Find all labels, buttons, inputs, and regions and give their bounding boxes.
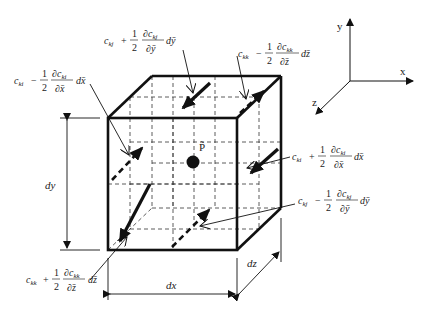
control-volume-diagram: P̃ dy dx dz y x z ckj + 1 2 — [0, 0, 427, 316]
flux-label-bottom: ckj − 1 2 ∂ckj ∂ȳ dȳ — [298, 188, 370, 214]
svg-text:∂x̄: ∂x̄ — [55, 83, 65, 94]
svg-text:ckk: ckk — [238, 48, 250, 61]
svg-text:1: 1 — [132, 28, 137, 39]
svg-text:∂ckk: ∂ckk — [277, 41, 293, 54]
svg-text:1: 1 — [326, 188, 331, 199]
dimension-dy — [60, 118, 100, 250]
svg-text:+: + — [309, 151, 315, 162]
svg-text:dz̄: dz̄ — [88, 274, 97, 285]
axis-z-label: z — [312, 96, 317, 108]
svg-text:2: 2 — [132, 42, 137, 53]
svg-text:−: − — [315, 195, 321, 206]
svg-text:cki: cki — [14, 75, 24, 88]
svg-text:∂z̄: ∂z̄ — [280, 56, 289, 67]
svg-text:∂cki: ∂cki — [331, 144, 345, 157]
svg-text:+: + — [121, 35, 127, 46]
svg-text:cki: cki — [292, 151, 302, 164]
svg-text:dx̄: dx̄ — [76, 75, 86, 86]
svg-text:2: 2 — [326, 202, 331, 213]
svg-text:∂ȳ: ∂ȳ — [146, 43, 156, 54]
svg-text:∂x̄: ∂x̄ — [334, 159, 344, 170]
flux-label-back: ckk − 1 2 ∂ckk ∂z̄ dz̄ — [238, 41, 310, 67]
coordinate-axes — [316, 19, 413, 114]
svg-text:2: 2 — [267, 55, 272, 66]
dimension-dz-label: dz — [247, 257, 258, 269]
axis-y-label: y — [337, 20, 343, 32]
svg-text:2: 2 — [54, 281, 59, 292]
dimension-dy-label: dy — [45, 179, 56, 191]
dimension-dx-label: dx — [166, 279, 177, 291]
svg-text:+: + — [43, 274, 49, 285]
svg-text:dȳ: dȳ — [166, 35, 176, 46]
flux-label-right: cki + 1 2 ∂cki ∂x̄ dx̄ — [292, 144, 364, 170]
svg-text:ckj: ckj — [298, 195, 308, 208]
svg-text:2: 2 — [42, 82, 47, 93]
axis-x-label: x — [400, 65, 406, 77]
svg-text:dx̄: dx̄ — [354, 151, 364, 162]
svg-text:∂ckj: ∂ckj — [337, 188, 351, 201]
svg-text:dȳ: dȳ — [360, 195, 370, 206]
svg-text:−: − — [256, 48, 262, 59]
svg-text:−: − — [31, 75, 37, 86]
svg-text:1: 1 — [54, 267, 59, 278]
svg-text:∂cki: ∂cki — [52, 68, 66, 81]
svg-text:2: 2 — [320, 158, 325, 169]
svg-text:∂ckj: ∂ckj — [143, 28, 157, 41]
center-point — [187, 156, 200, 169]
svg-text:1: 1 — [267, 41, 272, 52]
flux-label-top: ckj + 1 2 ∂ckj ∂ȳ dȳ — [104, 28, 176, 54]
center-point-label: P̃ — [199, 141, 205, 153]
svg-text:∂ȳ: ∂ȳ — [340, 203, 350, 214]
svg-text:dz̄: dz̄ — [301, 48, 310, 59]
svg-text:1: 1 — [320, 144, 325, 155]
svg-text:ckj: ckj — [104, 35, 114, 48]
svg-text:∂ckk: ∂ckk — [64, 267, 80, 280]
flux-label-left: cki − 1 2 ∂cki ∂x̄ dx̄ — [14, 68, 86, 94]
svg-text:1: 1 — [42, 68, 47, 79]
flux-label-front: ckk + 1 2 ∂ckk ∂z̄ dz̄ — [26, 267, 97, 293]
svg-text:ckk: ckk — [26, 274, 38, 287]
svg-text:∂z̄: ∂z̄ — [67, 282, 76, 293]
